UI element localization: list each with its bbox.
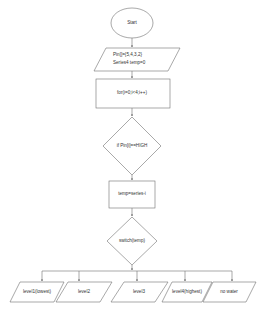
init-label-line1: Pin[]={5,4,3,2} (113, 53, 142, 58)
check-label: if Pin[i]==HIGH (117, 144, 148, 149)
flowchart-canvas (0, 0, 265, 316)
start-label: Start (127, 21, 137, 26)
assign-label: temp=series-i (118, 192, 146, 197)
level2-label: level2 (78, 290, 90, 295)
init-label-line2: Series4 temp=0 (113, 61, 145, 66)
nowater-label: no water (220, 290, 238, 295)
level3-label: level3 (133, 290, 145, 295)
level1-label: level1(lowest) (23, 290, 51, 295)
level4-label: level4(highest) (172, 290, 202, 295)
loop-label: for(i=0;i<4;i++) (117, 91, 147, 96)
switch-label: switch(temp) (119, 239, 145, 244)
